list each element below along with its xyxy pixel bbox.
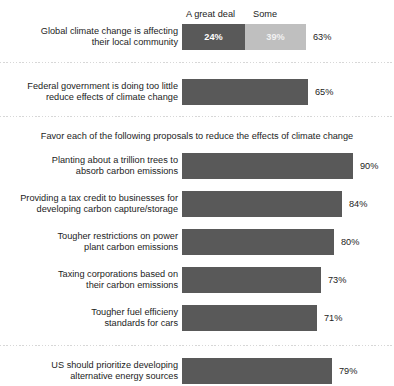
bar-fuel-efficiency-standards xyxy=(182,305,317,331)
bar-value-alternative-energy: 79% xyxy=(339,366,357,376)
bar-value-power-plant-restrictions: 80% xyxy=(341,237,359,247)
section-heading-proposals: Favor each of the following proposals to… xyxy=(0,131,394,141)
spacer-11 xyxy=(0,346,394,355)
bar-total-value-affecting-local-community: 63% xyxy=(313,32,331,42)
bar-value-fuel-efficiency-standards: 71% xyxy=(324,313,342,323)
bar-power-plant-restrictions xyxy=(182,229,334,255)
row-alternative-energy: US should prioritize developing alternat… xyxy=(0,355,394,386)
legend-label-a-great-deal: A great deal xyxy=(186,9,235,19)
bar-area-trillion-trees: 90% xyxy=(182,151,394,181)
spacer-10 xyxy=(0,333,394,345)
spacer-6 xyxy=(0,181,394,189)
bar-federal-government xyxy=(182,79,308,105)
bar-segment-some: 39% xyxy=(245,24,306,50)
bar-area-tax-credit-carbon-capture: 84% xyxy=(182,189,394,219)
bar-area-fuel-efficiency-standards: 71% xyxy=(182,303,394,333)
row-label-affecting-local-community: Global climate change is affecting their… xyxy=(0,26,182,49)
row-label-power-plant-restrictions: Tougher restrictions on power plant carb… xyxy=(0,231,182,254)
bar-area-taxing-corporations: 73% xyxy=(182,265,394,295)
row-tax-credit-carbon-capture: Providing a tax credit to businesses for… xyxy=(0,189,394,219)
bar-value-taxing-corporations: 73% xyxy=(328,275,346,285)
bar-trillion-trees xyxy=(182,153,353,179)
legend-label-some: Some xyxy=(253,9,277,19)
row-label-fuel-efficiency-standards: Tougher fuel efficieny standards for car… xyxy=(0,307,182,330)
row-label-alternative-energy: US should prioritize developing alternat… xyxy=(0,360,182,383)
bar-tax-credit-carbon-capture xyxy=(182,191,342,217)
bar-segment-a-great-deal: 24% xyxy=(182,24,245,50)
bar-area-federal-government: 65% xyxy=(182,76,394,108)
bar-area-power-plant-restrictions: 80% xyxy=(182,227,394,257)
spacer-7 xyxy=(0,219,394,227)
bar-value-tax-credit-carbon-capture: 84% xyxy=(349,199,367,209)
row-power-plant-restrictions: Tougher restrictions on power plant carb… xyxy=(0,227,394,257)
bar-segment-value-some: 39% xyxy=(245,24,306,50)
bar-area-affecting-local-community: 24% 39% 63% xyxy=(182,23,394,51)
row-fuel-efficiency-standards: Tougher fuel efficieny standards for car… xyxy=(0,303,394,333)
bar-segment-value-a-great-deal: 24% xyxy=(182,24,245,50)
row-label-taxing-corporations: Taxing corporations based on their carbo… xyxy=(0,269,182,292)
row-taxing-corporations: Taxing corporations based on their carbo… xyxy=(0,265,394,295)
row-federal-government: Federal government is doing too little r… xyxy=(0,76,394,108)
chart-legend: A great deal Some xyxy=(0,6,394,23)
bar-alternative-energy xyxy=(182,358,332,384)
spacer-1 xyxy=(0,51,394,62)
spacer-3 xyxy=(0,108,394,116)
row-label-federal-government: Federal government is doing too little r… xyxy=(0,81,182,104)
spacer-5 xyxy=(0,141,394,151)
row-affecting-local-community: Global climate change is affecting their… xyxy=(0,23,394,51)
row-label-trillion-trees: Planting about a trillion trees to absor… xyxy=(0,155,182,178)
bar-value-federal-government: 65% xyxy=(315,87,333,97)
bar-taxing-corporations xyxy=(182,267,321,293)
spacer-4 xyxy=(0,117,394,131)
row-trillion-trees: Planting about a trillion trees to absor… xyxy=(0,151,394,181)
bar-value-trillion-trees: 90% xyxy=(360,161,378,171)
spacer-9 xyxy=(0,295,394,303)
bar-area-alternative-energy: 79% xyxy=(182,355,394,386)
spacer-8 xyxy=(0,257,394,265)
row-label-tax-credit-carbon-capture: Providing a tax credit to businesses for… xyxy=(0,193,182,216)
climate-opinion-bar-chart: A great deal Some Global climate change … xyxy=(0,0,394,386)
spacer-2 xyxy=(0,63,394,76)
